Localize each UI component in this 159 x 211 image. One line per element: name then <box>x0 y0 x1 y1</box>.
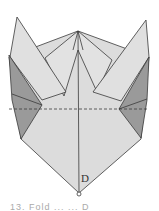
point-marker <box>77 192 81 196</box>
figure-caption: 13. Fold ... ... D <box>10 202 90 211</box>
point-d-label: D <box>81 172 89 184</box>
origami-diagram <box>0 0 159 211</box>
